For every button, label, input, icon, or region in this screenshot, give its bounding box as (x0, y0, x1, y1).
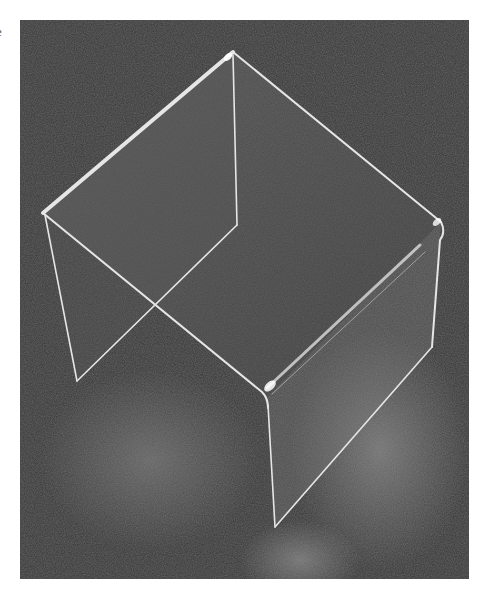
cropped-caption-text: e (0, 24, 2, 40)
product-photo (20, 20, 469, 579)
acrylic-riser-illustration (20, 20, 469, 579)
